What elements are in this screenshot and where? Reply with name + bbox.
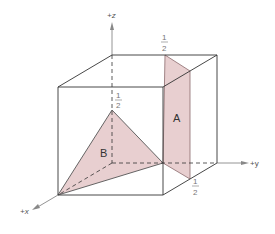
svg-text:1: 1	[193, 177, 198, 186]
svg-text:2: 2	[162, 44, 167, 53]
z-intercept-fraction: 1 2	[115, 91, 122, 110]
top-y-intercept-fraction: 1 2	[161, 33, 168, 53]
svg-text:2: 2	[116, 101, 121, 110]
y-axis-arrow-icon	[241, 161, 249, 165]
bottom-y-intercept-fraction: 1 2	[192, 177, 199, 197]
svg-text:2: 2	[193, 188, 198, 197]
plane-b-label: B	[100, 147, 107, 159]
z-axis-label: +z	[107, 11, 116, 20]
x-axis-label: +x	[20, 207, 30, 216]
x-axis	[36, 195, 58, 208]
plane-a-label: A	[173, 112, 181, 124]
y-axis-label: +y	[250, 159, 259, 168]
x-axis-arrow-icon	[32, 204, 40, 210]
z-axis-arrow-icon	[110, 22, 114, 30]
plane-b	[58, 110, 163, 195]
svg-text:1: 1	[162, 33, 167, 42]
svg-text:1: 1	[116, 91, 121, 100]
unit-cell-diagram: +z +y +x 1 2 1 2 1 2 A B	[0, 0, 275, 234]
